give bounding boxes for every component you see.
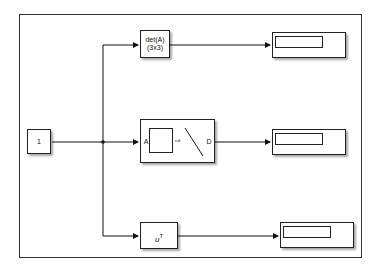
diagonal-slash-icon — [183, 126, 205, 158]
transpose-superscript: T — [159, 233, 163, 239]
constant-block[interactable]: 1 — [27, 129, 51, 154]
transpose-label: uT — [141, 232, 177, 244]
display-value-field — [275, 133, 323, 145]
determinant-label-line2: (3x3) — [141, 44, 169, 52]
display-value-field — [283, 226, 331, 238]
display-block-1[interactable] — [272, 32, 346, 58]
display-block-3[interactable] — [280, 222, 354, 248]
display-block-2[interactable] — [272, 129, 346, 155]
determinant-label-line1: det(A) — [141, 36, 169, 44]
determinant-block[interactable]: det(A) (3x3) — [140, 30, 170, 58]
output-port-label: D — [205, 138, 213, 146]
constant-value: 1 — [28, 138, 50, 146]
branch-junction — [101, 140, 105, 144]
diagram-canvas: 1 det(A) (3x3) A ⇨ D uT — [0, 0, 380, 271]
transpose-block[interactable]: uT — [140, 222, 178, 249]
converter-inner-box-icon — [149, 128, 173, 153]
arrow-icon: ⇨ — [175, 137, 181, 144]
converter-block[interactable]: A ⇨ D — [140, 119, 215, 163]
display-value-field — [275, 36, 323, 48]
